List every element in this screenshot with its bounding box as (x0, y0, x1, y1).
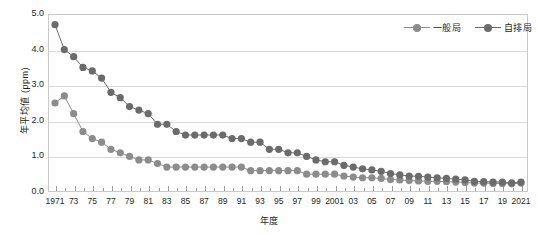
x-tick-label: 97 (293, 196, 302, 206)
x-tick (382, 188, 383, 191)
x-tick (485, 186, 486, 191)
x-tick-label: 17 (479, 196, 488, 206)
x-tick (513, 188, 514, 191)
x-tick (401, 188, 402, 191)
x-tick-label: 91 (237, 196, 246, 206)
x-tick-label: 11 (423, 196, 432, 206)
x-tick (168, 186, 169, 191)
legend-label-general: 一般局 (433, 21, 461, 34)
x-tick (84, 188, 85, 191)
x-tick-label: 93 (255, 196, 264, 206)
x-tick (112, 186, 113, 191)
x-tick-label: 87 (199, 196, 208, 206)
legend-item-general: 一般局 (404, 21, 461, 34)
x-tick (280, 186, 281, 191)
x-tick-label: 2021 (512, 196, 531, 206)
x-tick (149, 186, 150, 191)
x-tick-label: 05 (367, 196, 376, 206)
x-tick (140, 188, 141, 191)
gridline (49, 122, 527, 123)
x-tick-label: 09 (404, 196, 413, 206)
gridline (49, 157, 527, 158)
x-tick (65, 188, 66, 191)
x-tick (345, 188, 346, 191)
x-tick (270, 188, 271, 191)
x-tick (392, 186, 393, 191)
x-tick (93, 186, 94, 191)
x-tick (252, 188, 253, 191)
x-tick (503, 186, 504, 191)
x-tick (429, 186, 430, 191)
x-tick (103, 188, 104, 191)
y-tick-label: 1.0 (4, 151, 44, 160)
x-tick-label: 07 (386, 196, 395, 206)
x-tick-label: 99 (311, 196, 320, 206)
plot-area (48, 14, 528, 192)
x-axis-title: 年度 (0, 214, 538, 227)
x-tick (494, 188, 495, 191)
chart-figure: 年平均値 (ppm) 一般局 自排局 年度 0.01.02.03.04.05.0… (0, 0, 538, 234)
legend-label-roadside: 自排局 (504, 21, 532, 34)
x-tick (121, 188, 122, 191)
x-tick (159, 188, 160, 191)
x-tick (214, 188, 215, 191)
x-tick-label: 81 (143, 196, 152, 206)
x-tick (224, 186, 225, 191)
x-tick-label: 19 (498, 196, 507, 206)
legend-marker-general (404, 23, 430, 32)
x-tick (56, 186, 57, 191)
gridline (49, 51, 527, 52)
x-tick (205, 186, 206, 191)
x-tick (177, 188, 178, 191)
x-tick (131, 186, 132, 191)
x-tick-label: 89 (218, 196, 227, 206)
x-tick (373, 186, 374, 191)
x-tick (364, 188, 365, 191)
x-tick-label: 1971 (46, 196, 65, 206)
x-tick (326, 188, 327, 191)
y-tick-label: 0.0 (4, 187, 44, 196)
x-tick (447, 186, 448, 191)
x-tick-label: 15 (460, 196, 469, 206)
x-tick (196, 188, 197, 191)
gridline (49, 86, 527, 87)
x-tick-label: 77 (106, 196, 115, 206)
x-tick-label: 83 (162, 196, 171, 206)
x-tick (289, 188, 290, 191)
x-tick (438, 188, 439, 191)
x-tick (457, 188, 458, 191)
x-tick-label: 85 (181, 196, 190, 206)
x-tick-label: 75 (88, 196, 97, 206)
x-tick (317, 186, 318, 191)
x-tick (354, 186, 355, 191)
x-tick-label: 95 (274, 196, 283, 206)
chart-legend: 一般局 自排局 (404, 21, 532, 34)
y-tick-label: 4.0 (4, 45, 44, 54)
x-tick-label: 79 (125, 196, 134, 206)
x-tick (261, 186, 262, 191)
y-tick-label: 2.0 (4, 116, 44, 125)
x-tick (186, 186, 187, 191)
x-tick (410, 186, 411, 191)
legend-item-roadside: 自排局 (475, 21, 532, 34)
x-tick (522, 186, 523, 191)
x-tick (75, 186, 76, 191)
x-tick-label: 73 (69, 196, 78, 206)
x-tick (233, 188, 234, 191)
x-tick-label: 03 (349, 196, 358, 206)
x-tick (242, 186, 243, 191)
x-tick (475, 188, 476, 191)
y-tick-label: 5.0 (4, 9, 44, 18)
x-tick (419, 188, 420, 191)
x-tick (298, 186, 299, 191)
x-tick (336, 186, 337, 191)
legend-marker-roadside (475, 23, 501, 32)
x-tick (308, 188, 309, 191)
y-tick-label: 3.0 (4, 80, 44, 89)
x-tick-label: 13 (442, 196, 451, 206)
x-tick (466, 186, 467, 191)
x-tick-label: 2001 (325, 196, 344, 206)
